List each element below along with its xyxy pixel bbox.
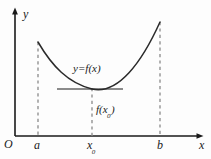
- tick-label-x0-subscript: 0: [92, 148, 96, 156]
- tick-label-x0: x0: [87, 139, 96, 154]
- tick-label-a: a: [34, 139, 40, 151]
- minimum-value-subscript: 0: [107, 112, 111, 120]
- math-figure-canvas: y x O a x0 b y=f(x) f(x0): [0, 0, 211, 159]
- minimum-value-close: ): [111, 103, 115, 115]
- function-label-lhs: y=: [73, 62, 85, 74]
- function-label-arg: (x): [88, 62, 100, 74]
- function-curve: [38, 22, 160, 90]
- y-axis-arrowhead: [12, 8, 18, 15]
- origin-label: O: [4, 138, 13, 150]
- x-axis: [15, 133, 204, 139]
- figure-vector-layer: [0, 0, 211, 159]
- function-label: y=f(x): [73, 63, 101, 74]
- y-axis: [12, 8, 18, 137]
- x-axis-label: x: [199, 139, 204, 151]
- tick-label-b: b: [157, 139, 163, 151]
- y-axis-label: y: [23, 8, 28, 20]
- minimum-value-label: f(x0): [96, 104, 115, 118]
